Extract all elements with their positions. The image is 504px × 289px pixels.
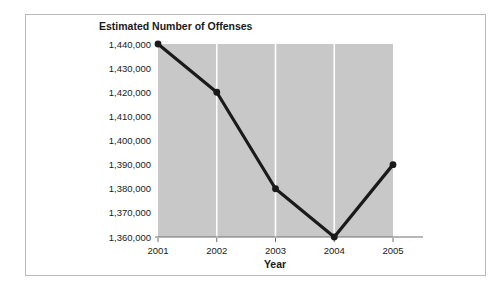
x-tick-label: 2001	[147, 245, 168, 256]
data-point-2002	[213, 89, 220, 96]
x-tick-marks	[158, 238, 393, 242]
y-axis-tick-labels: 1,360,0001,370,0001,380,0001,390,0001,40…	[109, 39, 151, 243]
x-tick-label: 2005	[382, 245, 403, 256]
x-axis-tick-labels: 20012002200320042005	[147, 245, 403, 256]
data-point-2005	[390, 161, 397, 168]
chart-figure: Estimated Number of Offenses 1,360,0001,…	[0, 0, 504, 289]
data-point-2004	[331, 234, 338, 241]
chart-title: Estimated Number of Offenses	[99, 20, 253, 32]
y-tick-label: 1,400,000	[109, 135, 151, 146]
data-point-2001	[155, 41, 162, 48]
y-tick-label: 1,370,000	[109, 207, 151, 218]
data-point-2003	[272, 185, 279, 192]
y-tick-label: 1,390,000	[109, 159, 151, 170]
x-tick-label: 2004	[324, 245, 345, 256]
y-tick-label: 1,420,000	[109, 87, 151, 98]
y-tick-label: 1,430,000	[109, 63, 151, 74]
x-axis-label: Year	[264, 258, 286, 270]
line-chart: Estimated Number of Offenses 1,360,0001,…	[0, 0, 504, 289]
x-tick-label: 2002	[206, 245, 227, 256]
y-tick-label: 1,410,000	[109, 111, 151, 122]
x-tick-label: 2003	[265, 245, 286, 256]
y-tick-label: 1,360,000	[109, 232, 151, 243]
y-tick-label: 1,380,000	[109, 183, 151, 194]
plot-area	[155, 41, 423, 242]
y-tick-label: 1,440,000	[109, 39, 151, 50]
